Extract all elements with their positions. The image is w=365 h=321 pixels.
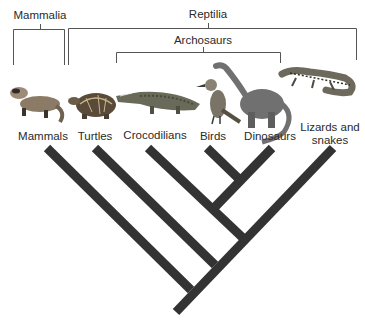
- ferret-illustration: [10, 87, 62, 122]
- branch-lizards: [176, 148, 333, 312]
- archosaurs-label: Archosaurs: [174, 34, 232, 47]
- cladogram-tree: [47, 148, 333, 312]
- crocodile-illustration: [116, 92, 200, 114]
- taxon-label-lizards-line1: Lizards and: [300, 121, 359, 134]
- taxon-label-lizards-and-snakes: Lizards and snakes: [300, 121, 359, 147]
- taxon-label-birds: Birds: [200, 130, 226, 143]
- taxon-label-mammals: Mammals: [18, 130, 68, 143]
- cladogram-canvas: [0, 0, 365, 321]
- bird-illustration: [196, 79, 240, 124]
- mammalia-bracket: [14, 24, 65, 65]
- reptilia-label: Reptilia: [189, 8, 227, 21]
- branch-birds: [207, 148, 238, 178]
- taxon-label-lizards-line2: snakes: [300, 134, 359, 147]
- lizard-illustration: [282, 70, 352, 92]
- archosaurs-bracket: [117, 47, 281, 63]
- turtle-illustration: [68, 93, 116, 119]
- mammalia-label: Mammalia: [13, 9, 66, 22]
- branch-turtles: [95, 148, 215, 265]
- taxon-label-crocodilians: Crocodilians: [123, 129, 186, 142]
- taxon-label-dinosaurs: Dinosaurs: [244, 130, 296, 143]
- taxon-label-turtles: Turtles: [78, 130, 113, 143]
